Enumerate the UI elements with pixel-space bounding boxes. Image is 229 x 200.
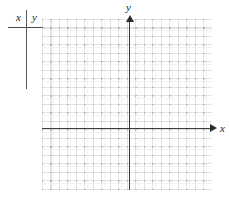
value-table-column-y: y xyxy=(32,11,37,23)
graph-paper-figure: x y x y xyxy=(0,0,229,200)
arrow-up-icon xyxy=(126,15,134,22)
value-table-column-x: x xyxy=(16,11,21,23)
value-table-header-rule xyxy=(8,27,46,28)
coordinate-plane: x y xyxy=(42,19,212,190)
arrow-right-icon xyxy=(210,124,217,132)
dotted-grid xyxy=(42,19,212,190)
x-axis-label: x xyxy=(220,123,225,134)
x-axis xyxy=(42,128,212,129)
y-axis-label: y xyxy=(126,2,131,13)
y-axis xyxy=(129,19,130,190)
value-table-column-divider xyxy=(26,10,27,89)
